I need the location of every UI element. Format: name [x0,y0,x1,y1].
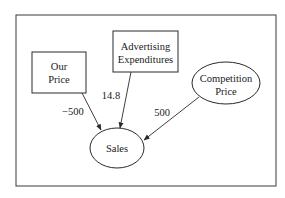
node-our-price-box [32,52,86,93]
node-sales-label: Sales [106,143,128,154]
node-our-price-line2: Price [48,74,70,85]
node-competition-price: Competition Price [192,62,260,104]
node-competition-line2: Price [215,86,237,97]
node-our-price-line1: Our [51,61,68,72]
edge-label-our-price: −500 [62,106,84,117]
edge-label-competition: 500 [154,107,170,118]
node-sales: Sales [90,128,144,168]
influence-diagram: −500 14.8 500 Our Price Advertising Expe… [0,0,285,198]
edge-competition-to-sales [144,97,199,140]
node-advertising-expenditures: Advertising Expenditures [113,31,178,72]
node-competition-line1: Competition [200,73,253,84]
node-advertising-line1: Advertising [121,41,171,52]
diagram-canvas: −500 14.8 500 Our Price Advertising Expe… [0,0,285,198]
node-advertising-line2: Expenditures [118,54,173,65]
edge-our-price-to-sales [82,93,101,130]
node-our-price: Our Price [32,52,86,93]
edge-label-advertising: 14.8 [102,90,120,101]
edge-advertising-to-sales [120,72,131,128]
